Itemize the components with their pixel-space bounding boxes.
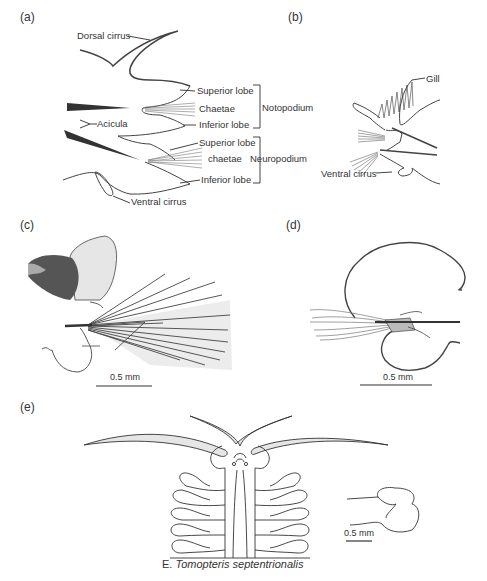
caption-species: Tomopteris septentrionalis bbox=[175, 558, 303, 570]
label-dorsal-cirrus: Dorsal cirrus bbox=[77, 30, 130, 41]
label-neuropodium: Neuropodium bbox=[250, 153, 307, 164]
figure-caption: E. Tomopteris septentrionalis bbox=[162, 558, 303, 570]
panel-c-drawing bbox=[28, 236, 232, 386]
label-neuro-inferior-lobe: Inferior lobe bbox=[201, 174, 251, 185]
caption-prefix: E. bbox=[162, 558, 172, 570]
label-neuro-superior-lobe: Superior lobe bbox=[199, 137, 256, 148]
label-noto-chaetae: Chaetae bbox=[199, 103, 235, 114]
panel-c-scale-label: 0.5 mm bbox=[110, 372, 140, 382]
label-neuro-chaetae: chaetae bbox=[208, 153, 242, 164]
label-ventral-cirrus-b: Ventral cirrus bbox=[321, 168, 376, 179]
label-ventral-cirrus-a: Ventral cirrus bbox=[131, 196, 186, 207]
label-notopodium: Notopodium bbox=[262, 102, 313, 113]
label-acicula: Acicula bbox=[97, 118, 128, 129]
panel-d-scale-label: 0.5 mm bbox=[383, 372, 413, 382]
label-noto-inferior-lobe: Inferior lobe bbox=[199, 119, 249, 130]
label-noto-superior-lobe: Superior lobe bbox=[197, 85, 254, 96]
panel-e-scale-label: 0.5 mm bbox=[344, 528, 374, 538]
panel-d-drawing bbox=[310, 243, 465, 385]
label-gill: Gill bbox=[426, 73, 440, 84]
